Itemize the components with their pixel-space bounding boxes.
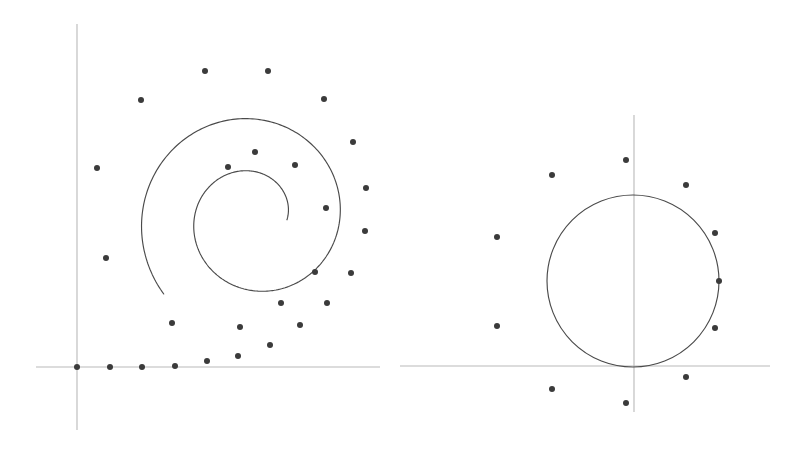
spiral-data-point-14 — [265, 68, 271, 74]
circle-data-point-10 — [623, 400, 629, 406]
spiral-data-point-16 — [138, 97, 144, 103]
spiral-data-point-19 — [169, 320, 175, 326]
spiral-data-point-21 — [278, 300, 284, 306]
spiral-data-point-8 — [324, 300, 330, 306]
circle-data-point-4 — [712, 230, 718, 236]
spiral-data-point-25 — [252, 149, 258, 155]
spiral-data-point-11 — [363, 185, 369, 191]
circle-data-point-7 — [712, 325, 718, 331]
spiral-data-point-10 — [362, 228, 368, 234]
circle-data-point-2 — [683, 182, 689, 188]
circle-data-point-6 — [494, 323, 500, 329]
spiral-data-point-1 — [107, 364, 113, 370]
circle-data-point-0 — [623, 157, 629, 163]
circle-data-point-8 — [683, 374, 689, 380]
spiral-data-point-26 — [225, 164, 231, 170]
spiral-data-point-24 — [292, 162, 298, 168]
circle-data-point-9 — [549, 386, 555, 392]
spiral-data-point-17 — [94, 165, 100, 171]
circle-data-point-5 — [716, 278, 722, 284]
circle-data-point-3 — [494, 234, 500, 240]
circle-data-point-1 — [549, 172, 555, 178]
figure-root — [0, 0, 796, 451]
spiral-data-point-13 — [321, 96, 327, 102]
spiral-data-point-7 — [297, 322, 303, 328]
spiral-data-point-6 — [267, 342, 273, 348]
spiral-data-point-12 — [350, 139, 356, 145]
spiral-data-point-20 — [237, 324, 243, 330]
spiral-data-point-4 — [204, 358, 210, 364]
spiral-data-point-3 — [172, 363, 178, 369]
spiral-data-point-0 — [74, 364, 80, 370]
spiral-data-point-15 — [202, 68, 208, 74]
spiral-data-point-5 — [235, 353, 241, 359]
spiral-data-point-23 — [323, 205, 329, 211]
figure-background — [0, 0, 796, 451]
spiral-data-point-18 — [103, 255, 109, 261]
spiral-data-point-2 — [139, 364, 145, 370]
spiral-data-point-22 — [312, 269, 318, 275]
figure-canvas — [0, 0, 796, 451]
spiral-data-point-9 — [348, 270, 354, 276]
